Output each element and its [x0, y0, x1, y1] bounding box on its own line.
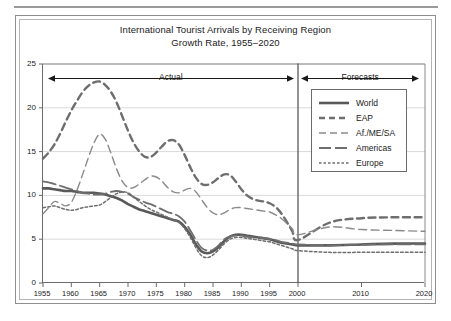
x-tick-2020: 2020: [407, 289, 441, 298]
legend-item-world[interactable]: World: [312, 95, 406, 110]
annotation-arrow-forecasts: [301, 73, 419, 84]
series-line-europe: [43, 192, 425, 258]
legend-label-americas: Americas: [356, 143, 391, 153]
y-tick-25: 25: [16, 59, 36, 68]
legend-item-eap[interactable]: EAP: [312, 110, 406, 125]
legend-swatch-europe: [318, 158, 350, 168]
y-tick-10: 10: [16, 190, 36, 199]
annotation-arrow-actual: [48, 73, 294, 84]
x-tick-2010: 2010: [344, 289, 378, 298]
legend-label-europe: Europe: [356, 158, 383, 168]
legend-label-eap: EAP: [356, 113, 373, 123]
series-line-world: [43, 188, 425, 253]
y-tick-5: 5: [16, 234, 36, 243]
legend-swatch-world: [318, 98, 350, 108]
legend-label-world: World: [356, 98, 378, 108]
legend-swatch-eap: [318, 113, 350, 123]
legend-swatch-af-me-sa: [318, 128, 350, 138]
chart-figure: International Tourist Arrivals by Receiv…: [0, 0, 451, 321]
legend-item-europe[interactable]: Europe: [312, 155, 406, 170]
y-tick-15: 15: [16, 147, 36, 156]
y-tick-20: 20: [16, 103, 36, 112]
chart-legend: World EAP Af./ME/SA Americas Europe: [311, 89, 407, 172]
legend-item-americas[interactable]: Americas: [312, 140, 406, 155]
y-tick-0: 0: [16, 278, 36, 287]
legend-label-af-me-sa: Af./ME/SA: [356, 128, 395, 138]
legend-item-af-me-sa[interactable]: Af./ME/SA: [312, 125, 406, 140]
series-line-americas: [43, 181, 425, 250]
legend-swatch-americas: [318, 143, 350, 153]
x-tick-2000: 2000: [280, 289, 314, 298]
